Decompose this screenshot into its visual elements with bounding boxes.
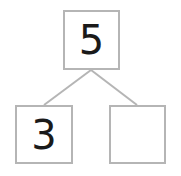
part-box-left: 3 bbox=[15, 105, 73, 164]
part-box-right-empty[interactable] bbox=[109, 105, 166, 164]
number-bond-diagram: 5 3 bbox=[0, 0, 181, 176]
connector-right bbox=[91, 70, 137, 105]
part-left-value: 3 bbox=[31, 115, 56, 155]
whole-value: 5 bbox=[79, 20, 104, 60]
connector-left bbox=[44, 70, 91, 105]
whole-box: 5 bbox=[63, 10, 120, 70]
